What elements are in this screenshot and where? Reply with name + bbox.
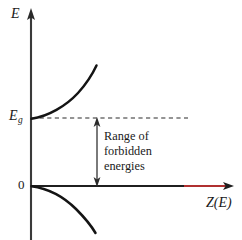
annotation-line-2: forbidden (104, 144, 152, 159)
valence-band-curve (32, 186, 96, 233)
forbidden-gap-arrow (94, 117, 101, 187)
forbidden-range-annotation: Range of forbidden energies (104, 129, 152, 175)
conduction-band-curve (32, 66, 97, 119)
density-of-states-figure: E Eg 0 Z(E) Range of forbidden energies (0, 0, 242, 240)
annotation-line-1: Range of (104, 129, 152, 144)
origin-label: 0 (18, 178, 25, 191)
x-axis (31, 182, 234, 190)
y-axis (27, 8, 35, 240)
x-axis-label: Z(E) (206, 196, 232, 210)
band-gap-label-base: E (9, 108, 18, 123)
band-gap-label-subscript: g (18, 115, 23, 125)
band-gap-label: Eg (9, 109, 23, 126)
annotation-line-3: energies (104, 159, 152, 174)
y-axis-label: E (11, 7, 20, 21)
